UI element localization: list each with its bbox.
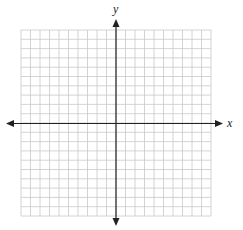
arrow-up-icon <box>113 19 120 27</box>
arrow-down-icon <box>113 218 120 226</box>
y-axis-label: y <box>113 3 118 15</box>
x-axis-label: x <box>227 117 232 129</box>
arrow-right-icon <box>215 120 223 127</box>
coordinate-plane <box>0 0 243 230</box>
arrow-left-icon <box>6 120 14 127</box>
